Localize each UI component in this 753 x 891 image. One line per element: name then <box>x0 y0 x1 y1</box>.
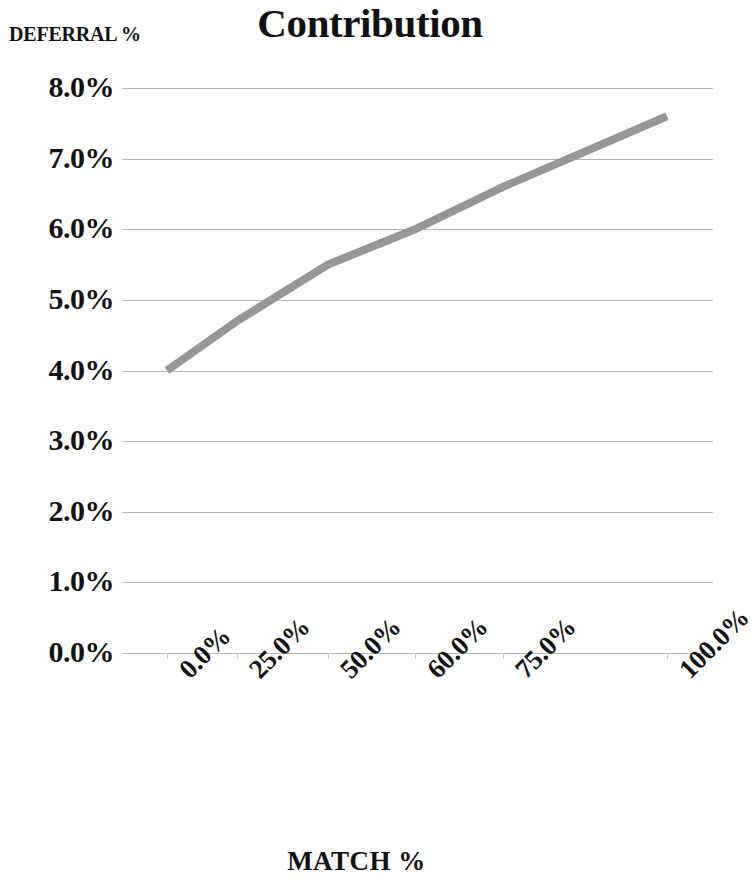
x-axis-tick-mark <box>167 653 168 659</box>
x-axis-tick-mark <box>503 653 504 659</box>
x-axis-tick-label: 75.0% <box>509 612 582 685</box>
x-axis-tick-mark <box>667 653 668 659</box>
x-axis-tick-mark <box>415 653 416 659</box>
x-axis-tick-mark <box>328 653 329 659</box>
x-axis-title: MATCH % <box>0 845 713 877</box>
x-axis-tick-mark <box>237 653 238 659</box>
x-axis-tick-label: 100.0% <box>673 602 753 684</box>
x-axis-tick-label: 25.0% <box>243 612 316 685</box>
x-axis-tick-label: 0.0% <box>173 621 236 684</box>
x-axis-tick-label: 60.0% <box>421 612 494 685</box>
x-axis-tick-label: 50.0% <box>334 612 407 685</box>
